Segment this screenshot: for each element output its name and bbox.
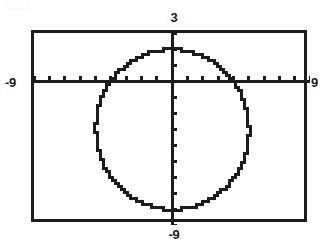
- plot-canvas: [34, 33, 310, 225]
- scan-artifact: [4, 1, 30, 10]
- y-axis-min-label: -9: [0, 228, 326, 241]
- x-axis-max-label: 9: [311, 76, 318, 89]
- y-axis-max-label: 3: [0, 11, 326, 24]
- calculator-graph-screenshot: 3 -9 9 -9: [0, 0, 326, 248]
- y-axis: [172, 33, 177, 225]
- plot-viewport-frame: [31, 30, 307, 222]
- x-axis-min-label: -9: [5, 76, 16, 89]
